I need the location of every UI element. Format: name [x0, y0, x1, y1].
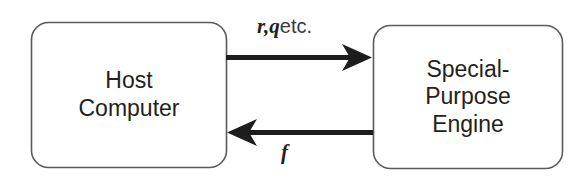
edge-host-to-engine[interactable]: [226, 44, 372, 71]
edge-host-to-engine-label-plain: etc.: [280, 15, 312, 37]
edge-engine-to-host-label: f: [281, 140, 288, 165]
block-diagram: Host Computer Special- Purpose Engine r,…: [0, 0, 588, 184]
edge-host-to-engine-label: r,qetc.: [257, 14, 312, 39]
node-host-computer[interactable]: [32, 23, 227, 168]
edge-engine-to-host[interactable]: [227, 119, 373, 146]
edge-engine-to-host-label-symbol: f: [281, 140, 288, 164]
node-special-purpose-engine[interactable]: [374, 26, 563, 169]
edge-host-to-engine-label-symbol: r,q: [257, 14, 280, 38]
